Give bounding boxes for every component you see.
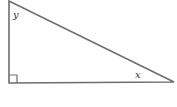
triangle xyxy=(9,1,174,83)
angle-label-y: y xyxy=(12,9,19,20)
right-triangle-diagram: y x xyxy=(0,0,177,107)
angle-label-x: x xyxy=(135,69,141,80)
right-angle-marker xyxy=(9,75,17,83)
